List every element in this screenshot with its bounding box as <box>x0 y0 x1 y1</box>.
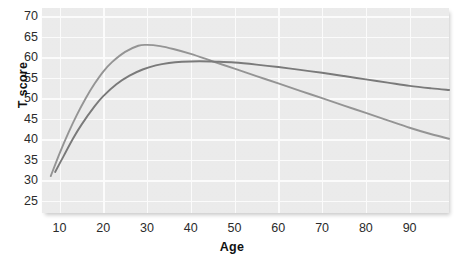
x-tick-label: 70 <box>302 221 342 235</box>
y-axis-title: T score <box>16 40 30 130</box>
series-line-curve-dark <box>55 61 449 172</box>
x-tick-label: 50 <box>215 221 255 235</box>
plot-area <box>42 8 449 213</box>
chart-root: 25303540455055606570 102030405060708090 … <box>0 0 464 267</box>
x-axis-title: Age <box>0 240 464 254</box>
y-tick-label: 30 <box>8 173 38 187</box>
x-tick-label: 60 <box>258 221 298 235</box>
x-tick-label: 80 <box>346 221 386 235</box>
x-tick-label: 30 <box>127 221 167 235</box>
y-tick-label: 40 <box>8 132 38 146</box>
y-tick-label: 35 <box>8 153 38 167</box>
x-tick-label: 90 <box>390 221 430 235</box>
x-tick-label: 10 <box>40 221 80 235</box>
y-tick-label: 25 <box>8 194 38 208</box>
data-curves <box>42 8 449 213</box>
y-tick-label: 70 <box>8 9 38 23</box>
x-tick-label: 20 <box>83 221 123 235</box>
x-tick-label: 40 <box>171 221 211 235</box>
